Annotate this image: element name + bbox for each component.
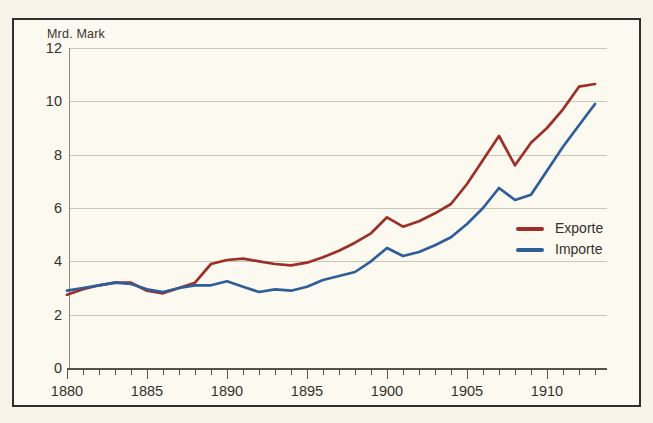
y-tick-label: 8 [20,147,62,163]
x-major-tick-1880 [67,370,68,379]
x-minor-tick-1898 [355,370,356,375]
x-tick-label: 1890 [203,383,251,399]
x-major-tick-1890 [227,370,228,379]
x-minor-tick-1901 [403,370,404,375]
x-minor-tick-1883 [115,370,116,375]
x-minor-tick-1889 [211,370,212,375]
y-tick-label: 4 [20,253,62,269]
x-tick-label: 1910 [523,383,571,399]
x-tick-label: 1900 [363,383,411,399]
x-minor-tick-1896 [323,370,324,375]
x-major-tick-1885 [147,370,148,379]
legend-swatch-exporte [516,227,544,231]
y-tick-label: 0 [20,360,62,376]
chart-frame [12,18,641,407]
legend-label-exporte: Exporte [555,220,603,236]
legend-swatch-importe [516,248,544,252]
x-minor-tick-1912 [579,370,580,375]
chart-figure: Mrd. Mark 024681012188018851890189519001… [0,0,653,423]
x-minor-tick-1893 [275,370,276,375]
x-minor-tick-1881 [83,370,84,375]
x-tick-label: 1895 [283,383,331,399]
x-minor-tick-1886 [163,370,164,375]
x-minor-tick-1903 [435,370,436,375]
x-major-tick-1910 [547,370,548,379]
y-tick-label: 6 [20,200,62,216]
x-minor-tick-1882 [99,370,100,375]
x-minor-tick-1888 [195,370,196,375]
x-minor-tick-1894 [291,370,292,375]
x-tick-label: 1880 [43,383,91,399]
y-axis-unit-label: Mrd. Mark [47,27,105,41]
y-tick-label: 2 [20,307,62,323]
x-minor-tick-1897 [339,370,340,375]
x-minor-tick-1909 [531,370,532,375]
x-axis-line [67,368,607,370]
x-minor-tick-1913 [595,370,596,375]
x-minor-tick-1892 [259,370,260,375]
x-major-tick-1895 [307,370,308,379]
x-minor-tick-1908 [515,370,516,375]
gridline-y-2 [69,315,607,316]
x-minor-tick-1899 [371,370,372,375]
gridline-y-4 [69,261,607,262]
x-minor-tick-1884 [131,370,132,375]
x-major-tick-1900 [387,370,388,379]
x-tick-label: 1905 [443,383,491,399]
gridline-y-8 [69,155,607,156]
x-tick-label: 1885 [123,383,171,399]
x-minor-tick-1911 [563,370,564,375]
gridline-y-12 [69,48,607,49]
x-minor-tick-1902 [419,370,420,375]
y-tick-label: 12 [20,40,62,56]
gridline-y-10 [69,101,607,102]
x-minor-tick-1904 [451,370,452,375]
x-minor-tick-1887 [179,370,180,375]
y-axis-line [69,48,70,368]
legend-label-importe: Importe [555,241,602,257]
y-tick-label: 10 [20,93,62,109]
gridline-y-6 [69,208,607,209]
x-minor-tick-1906 [483,370,484,375]
x-minor-tick-1907 [499,370,500,375]
x-minor-tick-1891 [243,370,244,375]
x-major-tick-1905 [467,370,468,379]
